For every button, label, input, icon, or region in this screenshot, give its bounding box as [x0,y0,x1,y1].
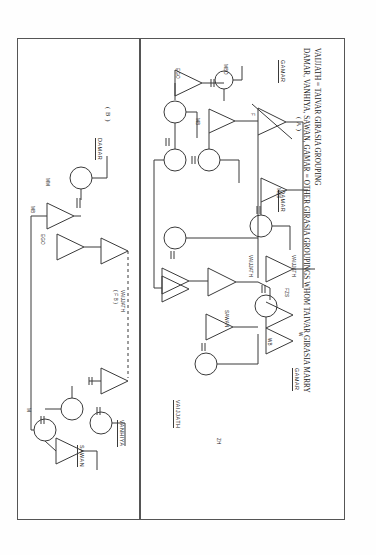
grouping-label-vaijjath: VAIJJATH [174,400,182,428]
person-label: W [298,332,303,337]
marriage-sign [202,343,205,351]
grouping-label-gamar: GAMAR [293,368,301,391]
grouping-label-sawan: SAWAN [78,445,86,467]
person-male [266,256,293,282]
descent-spine [31,338,34,430]
descent-spine [154,208,162,288]
person-label: F [250,113,255,116]
person-female [90,412,112,434]
grouping-label-vaijjath: VAIJJATH [291,255,296,277]
person-male [209,109,235,133]
person-male [208,268,236,296]
person-label: WB [267,338,272,346]
person-female [61,398,83,420]
person-label: MM [45,178,50,186]
person-female [70,167,92,189]
person-label: EGO [40,234,45,245]
marriage-sign [192,156,195,164]
person-female [198,149,220,171]
panel-a-graph [140,38,345,520]
grouping-label-vanhiya: VANHIYA [118,420,126,447]
person-male [162,268,189,294]
person-label: FZS [284,288,289,297]
grouping-label-sawan: SAWAN [224,310,229,328]
person-label: MB [30,206,35,213]
marriage-sign [262,285,265,293]
person-female [164,149,186,171]
marriage-sign [77,198,80,208]
person-label: MBS [276,188,281,199]
person-label: MB [195,118,200,125]
descent-bracket [233,66,242,80]
person-male [162,276,189,302]
descent-bracket [217,334,258,364]
person-female [164,227,186,249]
descent-bracket [83,451,97,470]
grouping-label-gamar: GAMAR [279,60,287,83]
person-female [164,101,186,123]
person-label: ZH [216,438,221,445]
person-female [195,353,217,375]
person-label: M [26,408,31,412]
person-male [101,368,128,394]
person-female [34,419,56,441]
person-female [250,215,272,237]
person-label: MBD [223,64,228,75]
kinship-diagram-page: VAIJJATH = TAIVAR GIRASIA GROUPING DAMAR… [0,0,376,555]
sibling-link [45,441,56,451]
descent-bracket [154,160,164,208]
descent-bracket [220,160,239,183]
grouping-label-vaijjath: VAIJJATH [248,255,253,277]
grouping-label-vaijjath-fb: VAIJJATH [120,290,125,312]
person-label: EGO [175,68,180,79]
fb-label: ( F B ) [113,290,118,304]
person-male [57,234,84,260]
marriage-sign [166,138,169,146]
person-male [47,203,74,229]
person-male [266,302,293,328]
descent-bracket [272,226,290,250]
person-male [101,238,128,264]
grouping-label-damar: DAMAR [96,138,104,160]
marriage-sign [41,416,44,424]
marriage-sign [171,251,174,259]
marriage-sign [97,407,100,415]
